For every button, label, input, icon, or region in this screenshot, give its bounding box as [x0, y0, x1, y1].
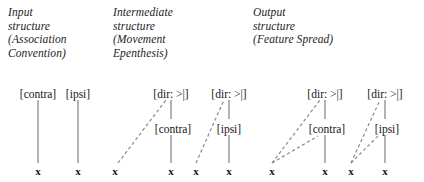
terminal-x: x [269, 166, 275, 177]
node-label-intermediate-ipsi: [ipsi] [217, 123, 241, 135]
terminal-x: x [226, 166, 232, 177]
terminal-x: x [168, 166, 174, 177]
terminal-x: x [193, 166, 199, 177]
linguistic-derivation-diagram: Input structure (Association Convention)… [0, 0, 424, 182]
terminal-x: x [75, 166, 81, 177]
terminal-x: x [382, 166, 388, 177]
terminal-x: x [322, 166, 328, 177]
node-label-output-ipsi: [ipsi] [375, 123, 399, 135]
edge-dashed-output-contra-spread [272, 136, 318, 163]
terminal-x: x [112, 166, 118, 177]
node-label-output-contra: [contra] [309, 123, 345, 135]
node-label-intermediate-contra: [contra] [155, 123, 191, 135]
terminal-x: x [35, 166, 41, 177]
node-label-input-ipsi: [ipsi] [66, 88, 90, 100]
edge-dashed-output-ipsi-spread [351, 136, 378, 163]
node-label-output-ipsi-dir: [dir: >|] [367, 88, 402, 100]
node-label-output-contra-dir: [dir: >|] [307, 88, 342, 100]
node-label-intermediate-contra-dir: [dir: >|] [153, 88, 188, 100]
terminal-x: x [348, 166, 354, 177]
node-label-input-contra: [contra] [20, 88, 56, 100]
node-label-intermediate-ipsi-dir: [dir: >|] [211, 88, 246, 100]
